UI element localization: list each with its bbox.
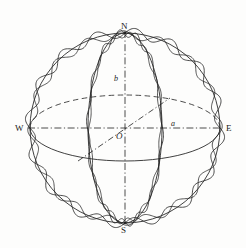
label-semi-minor-axis: b	[114, 75, 118, 83]
north-pole-point	[124, 32, 126, 34]
label-east: E	[226, 124, 232, 133]
south-pole-point	[124, 222, 126, 224]
figure-container: N S W E O a b	[0, 0, 246, 248]
label-south: S	[121, 226, 126, 235]
oblique-axis	[78, 98, 170, 161]
sphere-diagram	[0, 0, 246, 248]
label-semi-major-axis: a	[171, 120, 175, 128]
label-center-origin: O	[116, 132, 123, 141]
label-north: N	[121, 22, 128, 31]
label-west: W	[15, 124, 24, 133]
